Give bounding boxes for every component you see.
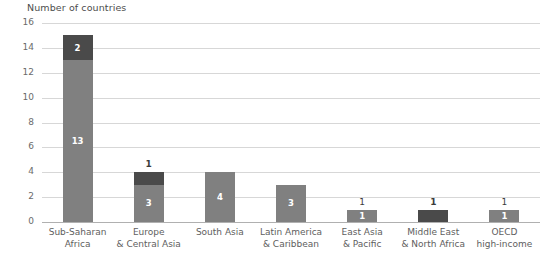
bar-series: 132314311111 (42, 23, 540, 222)
bar-value-label: 3 (288, 199, 294, 208)
bar-chart: Number of countries 0246810121416 132314… (0, 0, 547, 272)
bar-segment-light[interactable]: 1 (489, 210, 519, 222)
bar-column[interactable]: 3 (134, 172, 164, 222)
bar-value-label: 2 (75, 44, 81, 53)
x-axis-labels: Sub-SaharanAfricaEurope& Central AsiaSou… (42, 227, 540, 269)
x-axis-category-label: OECDhigh-income (458, 227, 547, 250)
bar-column[interactable] (418, 210, 448, 222)
y-axis-tick-label: 6 (8, 141, 34, 151)
bar-segment-light[interactable]: 3 (134, 185, 164, 222)
bar-value-label: 1 (501, 212, 507, 221)
category-label-line: & Central Asia (103, 239, 195, 251)
bar-value-label: 1 (359, 212, 365, 221)
bar-segment-dark[interactable]: 2 (63, 35, 93, 60)
bar-total-label: 1 (489, 198, 519, 207)
bar-column[interactable]: 1 (489, 210, 519, 222)
category-label-line: high-income (458, 239, 547, 251)
y-axis-tick-label: 2 (8, 191, 34, 201)
bar-value-label: 13 (72, 137, 84, 146)
bar-segment-dark[interactable] (418, 210, 448, 222)
bar-total-label: 1 (347, 198, 377, 207)
category-label-line: OECD (458, 227, 547, 239)
y-axis-tick-label: 14 (8, 42, 34, 52)
bar-value-label: 4 (217, 193, 223, 202)
y-axis-tick-label: 0 (8, 216, 34, 226)
y-axis-tick-label: 16 (8, 17, 34, 27)
bar-segment-light[interactable]: 3 (276, 185, 306, 222)
bar-value-label: 3 (146, 199, 152, 208)
bar-total-label: 1 (134, 160, 164, 169)
bar-total-label: 1 (418, 198, 448, 207)
bar-column[interactable]: 3 (276, 185, 306, 222)
plot-area: 0246810121416 132314311111 (42, 23, 540, 222)
bar-segment-light[interactable]: 13 (63, 60, 93, 222)
y-axis-tick-label: 12 (8, 67, 34, 77)
bar-segment-dark[interactable] (134, 172, 164, 184)
bar-segment-light[interactable]: 1 (347, 210, 377, 222)
y-axis-tick-label: 8 (8, 117, 34, 127)
y-axis-title: Number of countries (27, 2, 126, 13)
bar-column[interactable]: 1 (347, 210, 377, 222)
axis-baseline (42, 222, 540, 223)
y-axis-tick-label: 10 (8, 92, 34, 102)
y-axis-tick-label: 4 (8, 166, 34, 176)
bar-segment-light[interactable]: 4 (205, 172, 235, 222)
bar-column[interactable]: 4 (205, 172, 235, 222)
bar-column[interactable]: 132 (63, 35, 93, 222)
